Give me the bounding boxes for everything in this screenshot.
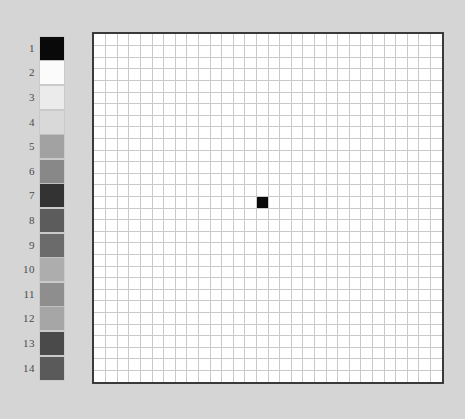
palette-swatch-label: 11 <box>23 289 35 300</box>
palette-swatch-chip[interactable] <box>40 86 64 109</box>
palette-swatch-label: 4 <box>29 117 35 128</box>
palette-swatch-chip[interactable] <box>40 135 64 158</box>
palette-swatch-chip[interactable] <box>40 209 64 232</box>
palette-swatch-chip[interactable] <box>40 184 64 207</box>
palette-swatch-row[interactable]: 1 <box>0 36 64 61</box>
palette-swatch-label: 3 <box>29 92 35 103</box>
palette-swatch-label: 2 <box>29 67 35 78</box>
palette-swatch-chip[interactable] <box>40 111 64 134</box>
palette-swatch-chip[interactable] <box>40 307 64 330</box>
palette-swatch-label: 9 <box>29 240 35 251</box>
palette-swatch-label: 7 <box>29 190 35 201</box>
palette-swatch-row[interactable]: 6 <box>0 159 64 184</box>
palette-swatch-label: 8 <box>29 215 35 226</box>
board-container <box>92 32 444 384</box>
palette-swatch-chip[interactable] <box>40 283 64 306</box>
color-palette[interactable]: 1234567891011121314 <box>0 36 64 380</box>
palette-swatch-row[interactable]: 7 <box>0 184 64 209</box>
pixel-grid-canvas[interactable] <box>92 32 444 384</box>
palette-swatch-row[interactable]: 10 <box>0 257 64 282</box>
palette-swatch-row[interactable]: 2 <box>0 61 64 86</box>
palette-swatch-row[interactable]: 3 <box>0 85 64 110</box>
palette-swatch-label: 1 <box>29 43 35 54</box>
palette-swatch-label: 6 <box>29 166 35 177</box>
palette-swatch-row[interactable]: 5 <box>0 134 64 159</box>
palette-swatch-chip[interactable] <box>40 61 64 84</box>
palette-swatch-label: 13 <box>23 338 35 349</box>
palette-swatch-chip[interactable] <box>40 357 64 380</box>
palette-swatch-chip[interactable] <box>40 37 64 60</box>
palette-swatch-row[interactable]: 9 <box>0 233 64 258</box>
palette-swatch-label: 12 <box>23 313 35 324</box>
palette-swatch-chip[interactable] <box>40 332 64 355</box>
palette-swatch-label: 14 <box>23 363 35 374</box>
palette-swatch-chip[interactable] <box>40 160 64 183</box>
palette-swatch-row[interactable]: 12 <box>0 307 64 332</box>
palette-swatch-row[interactable]: 14 <box>0 356 64 381</box>
palette-swatch-label: 10 <box>23 264 35 275</box>
palette-swatch-row[interactable]: 13 <box>0 331 64 356</box>
palette-swatch-chip[interactable] <box>40 234 64 257</box>
palette-swatch-row[interactable]: 11 <box>0 282 64 307</box>
palette-swatch-chip[interactable] <box>40 258 64 281</box>
palette-swatch-row[interactable]: 4 <box>0 110 64 135</box>
grid-lines <box>94 34 442 382</box>
palette-swatch-label: 5 <box>29 141 35 152</box>
app-root: 1234567891011121314 <box>0 0 465 419</box>
palette-swatch-row[interactable]: 8 <box>0 208 64 233</box>
